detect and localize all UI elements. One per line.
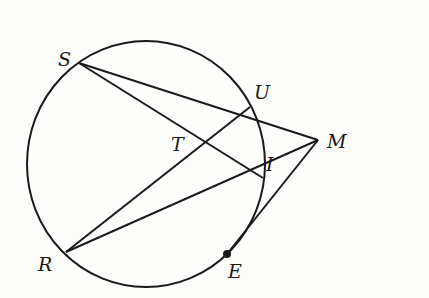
point-E-marker [223,250,231,258]
label-T: T [171,133,185,155]
label-M: M [326,130,347,152]
segment-RU [66,107,250,252]
label-R: R [37,253,52,275]
segment-SI [79,63,263,178]
label-E: E [227,260,242,282]
segment-RM [66,140,318,252]
segment-SM [79,63,318,140]
point-labels: S U T I M R E [37,48,347,282]
label-U: U [254,81,271,103]
geometry-diagram: S U T I M R E [0,0,429,298]
segments [66,63,318,254]
label-I: I [265,153,274,175]
point-markers [223,250,231,258]
label-S: S [58,48,71,70]
